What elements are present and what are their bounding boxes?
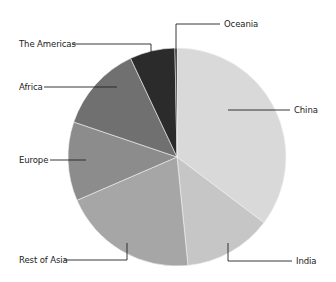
label-europe: Europe bbox=[19, 155, 48, 165]
label-africa: Africa bbox=[19, 82, 43, 92]
label-rest-of-asia: Rest of Asia bbox=[19, 255, 68, 265]
label-china: China bbox=[294, 105, 318, 115]
label-india: India bbox=[296, 256, 316, 266]
leader-line bbox=[176, 24, 220, 48]
leader-line bbox=[72, 44, 151, 53]
label-the-americas: The Americas bbox=[19, 39, 76, 49]
label-oceania: Oceania bbox=[224, 19, 258, 29]
pie-slices bbox=[68, 48, 286, 266]
